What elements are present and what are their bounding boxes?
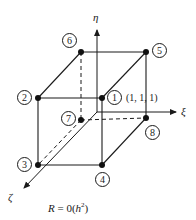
error-formula: R = 0(h2) (48, 202, 88, 214)
cube-drawing (0, 0, 196, 220)
node-label-4: 4 (95, 172, 110, 187)
node-label-8: 8 (145, 125, 160, 140)
node-label-6: 6 (62, 33, 77, 48)
node-label-2: 2 (17, 90, 32, 105)
node-label-1: 1 (107, 90, 122, 105)
cube-element-diagram: η ξ ζ 1 2 3 4 5 6 7 8 (1, 1, 1) R = 0(h2… (0, 0, 196, 220)
node1-coordinate: (1, 1, 1) (126, 93, 158, 103)
xi-axis-label: ξ (181, 106, 186, 117)
eta-axis-label: η (93, 12, 98, 23)
node-label-5: 5 (152, 43, 167, 58)
zeta-axis-label: ζ (8, 192, 12, 203)
node-label-7: 7 (61, 111, 76, 126)
zeta-axis (24, 112, 97, 188)
node-label-3: 3 (17, 157, 32, 172)
